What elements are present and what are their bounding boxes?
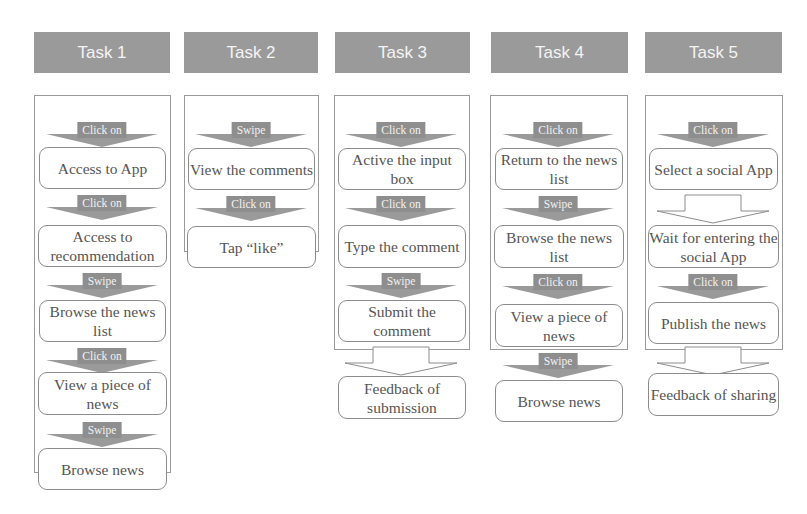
step-label: Feedback of submission: [339, 379, 465, 417]
action-arrow: Click on: [657, 122, 769, 149]
task-2-title: Task 2: [226, 43, 275, 63]
step-access-recommendation: Access to recommendation: [38, 225, 167, 267]
down-outline-arrow-icon: [657, 346, 769, 376]
action-arrow: Click on: [345, 196, 457, 223]
step-select-social-app: Select a social App: [649, 148, 778, 190]
action-label: Click on: [688, 122, 737, 138]
task-1-title: Task 1: [77, 43, 126, 63]
task-4-title: Task 4: [535, 43, 584, 63]
action-arrow: Click on: [657, 274, 769, 301]
step-return-news-list: Return to the news list: [495, 148, 623, 190]
step-browse-news-list: Browse the news list: [39, 300, 166, 342]
action-label: Click on: [688, 274, 737, 290]
action-arrow: Swipe: [46, 273, 158, 300]
action-arrow: Click on: [195, 196, 307, 223]
action-label: Click on: [376, 196, 425, 212]
step-label: Select a social App: [654, 160, 772, 179]
step-label: View a piece of news: [39, 375, 166, 413]
step-feedback-sharing: Feedback of sharing: [648, 373, 779, 416]
step-activate-input: Active the input box: [338, 148, 466, 190]
action-arrow: Swipe: [46, 422, 158, 449]
task-5-title: Task 5: [689, 43, 738, 63]
action-arrow: Click on: [345, 122, 457, 149]
step-label: View the comments: [190, 160, 313, 179]
step-type-comment: Type the comment: [338, 225, 466, 268]
outline-arrow: [657, 194, 769, 224]
task-5-header: Task 5: [645, 32, 782, 73]
step-label: Browse news: [517, 392, 600, 411]
action-label: Swipe: [232, 122, 271, 138]
step-label: Feedback of sharing: [651, 385, 777, 404]
step-view-comments: View the comments: [188, 148, 315, 190]
step-label: Browse news: [61, 460, 144, 479]
step-browse-news-list: Browse the news list: [494, 225, 624, 268]
action-arrow: Click on: [46, 348, 158, 375]
step-label: Tap “like”: [220, 238, 284, 257]
step-view-news: View a piece of news: [495, 304, 623, 347]
action-label: Click on: [226, 196, 275, 212]
task-4-header: Task 4: [491, 32, 628, 73]
action-arrow: Swipe: [345, 273, 457, 300]
action-arrow: Click on: [502, 122, 614, 149]
action-arrow: Swipe: [502, 196, 614, 223]
outline-arrow: [657, 346, 769, 376]
action-arrow: Swipe: [502, 353, 614, 380]
action-label: Click on: [77, 348, 126, 364]
step-label: Type the comment: [344, 237, 459, 256]
step-browse-news: Browse news: [38, 448, 167, 490]
action-label: Swipe: [539, 196, 578, 212]
action-arrow: Click on: [46, 122, 158, 149]
action-arrow: Swipe: [195, 122, 307, 149]
action-label: Click on: [77, 122, 126, 138]
task-3-header: Task 3: [335, 32, 470, 73]
step-label: Browse the news list: [495, 228, 623, 266]
task-2-header: Task 2: [184, 32, 318, 73]
outline-arrow: [345, 346, 457, 376]
step-label: Return to the news list: [496, 150, 622, 188]
step-publish-news: Publish the news: [648, 302, 779, 344]
step-browse-news: Browse news: [495, 380, 623, 422]
step-submit-comment: Submit the comment: [338, 300, 466, 342]
action-arrow: Click on: [46, 195, 158, 222]
step-label: View a piece of news: [496, 307, 622, 345]
step-wait-social-app: Wait for entering the social App: [648, 225, 779, 268]
down-outline-arrow-icon: [657, 194, 769, 224]
step-label: Wait for entering the social App: [649, 228, 778, 266]
step-label: Active the input box: [339, 150, 465, 188]
action-label: Swipe: [83, 422, 122, 438]
action-label: Click on: [533, 122, 582, 138]
task-3-title: Task 3: [378, 43, 427, 63]
action-arrow: Click on: [502, 274, 614, 301]
step-label: Publish the news: [661, 314, 766, 333]
step-label: Access to recommendation: [39, 227, 166, 265]
action-label: Swipe: [83, 273, 122, 289]
step-tap-like: Tap “like”: [187, 226, 316, 268]
step-label: Submit the comment: [339, 302, 465, 340]
action-label: Click on: [533, 274, 582, 290]
action-label: Swipe: [539, 353, 578, 369]
task-1-header: Task 1: [34, 32, 170, 73]
step-feedback-submission: Feedback of submission: [338, 376, 466, 419]
step-label: Browse the news list: [40, 302, 165, 340]
action-label: Click on: [77, 195, 126, 211]
action-label: Swipe: [382, 273, 421, 289]
step-view-news: View a piece of news: [38, 372, 167, 415]
down-outline-arrow-icon: [345, 346, 457, 376]
step-access-app: Access to App: [39, 147, 166, 189]
action-label: Click on: [376, 122, 425, 138]
step-label: Access to App: [58, 159, 148, 178]
